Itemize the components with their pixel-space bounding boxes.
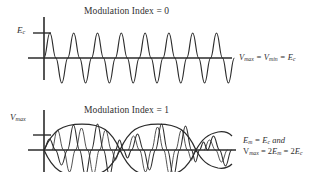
- plot-modulated-carrier: [0, 86, 324, 172]
- plot-unmodulated-carrier: [0, 0, 324, 86]
- am-modulation-index-figure: Modulation Index = 0 Ec Vmax = Vmin = Ec…: [0, 0, 324, 172]
- panel-modulation-index-0: Modulation Index = 0 Ec Vmax = Vmin = Ec: [0, 0, 324, 86]
- panel-modulation-index-1: Modulation Index = 1 Vmax Em = Ec andVma…: [0, 86, 324, 172]
